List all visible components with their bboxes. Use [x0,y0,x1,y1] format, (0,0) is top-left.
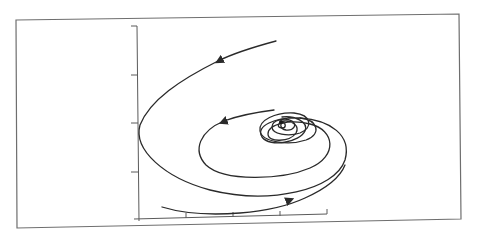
equilibrium-point [279,120,283,124]
y-axis [131,26,139,221]
phase-portrait-canvas [0,0,478,242]
outer-trajectory [139,41,346,196]
figure-frame [16,14,461,228]
phase-portrait-figure [0,0,478,242]
lower-trajectory [162,165,345,214]
